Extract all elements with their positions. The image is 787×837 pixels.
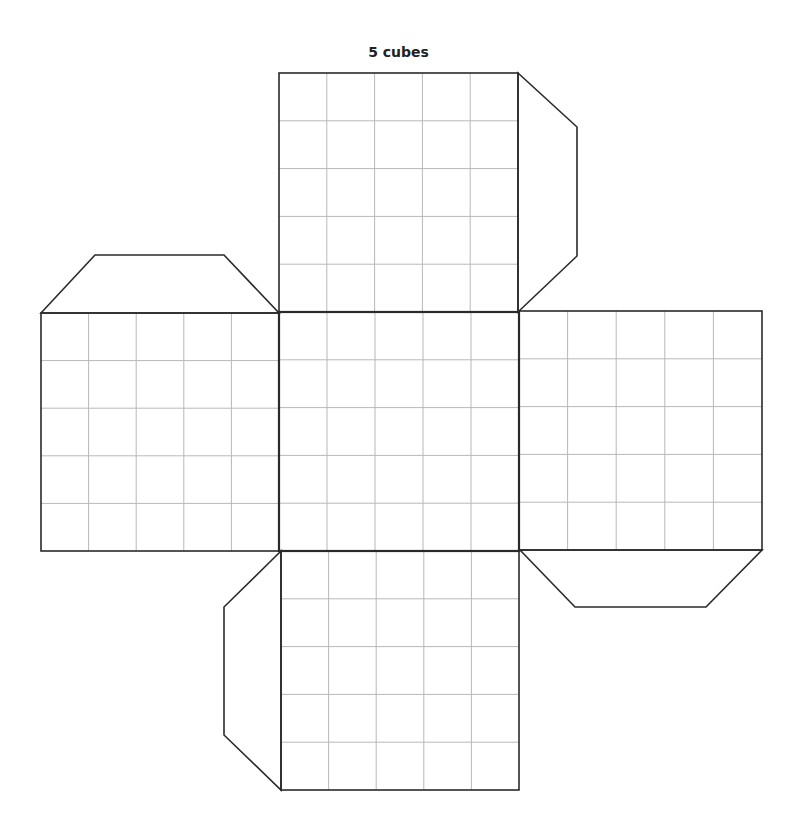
- grid-lines: [41, 73, 762, 790]
- face-outline-top: [279, 73, 518, 312]
- face-outline-center: [279, 312, 519, 551]
- cube-faces: [41, 73, 762, 790]
- face-left: [41, 313, 279, 551]
- glue-tabs: [41, 73, 762, 790]
- cube-net: [0, 0, 787, 837]
- face-right: [519, 311, 762, 550]
- face-outline-left: [41, 313, 279, 551]
- bottom-left-tab: [224, 551, 281, 790]
- face-outline-bottom: [281, 551, 519, 790]
- top-right-tab: [518, 73, 577, 312]
- face-bottom: [281, 551, 519, 790]
- face-outline-right: [519, 311, 762, 550]
- left-top-tab: [41, 255, 279, 313]
- face-center: [279, 312, 519, 551]
- face-top: [279, 73, 518, 312]
- right-bottom-tab: [520, 550, 762, 607]
